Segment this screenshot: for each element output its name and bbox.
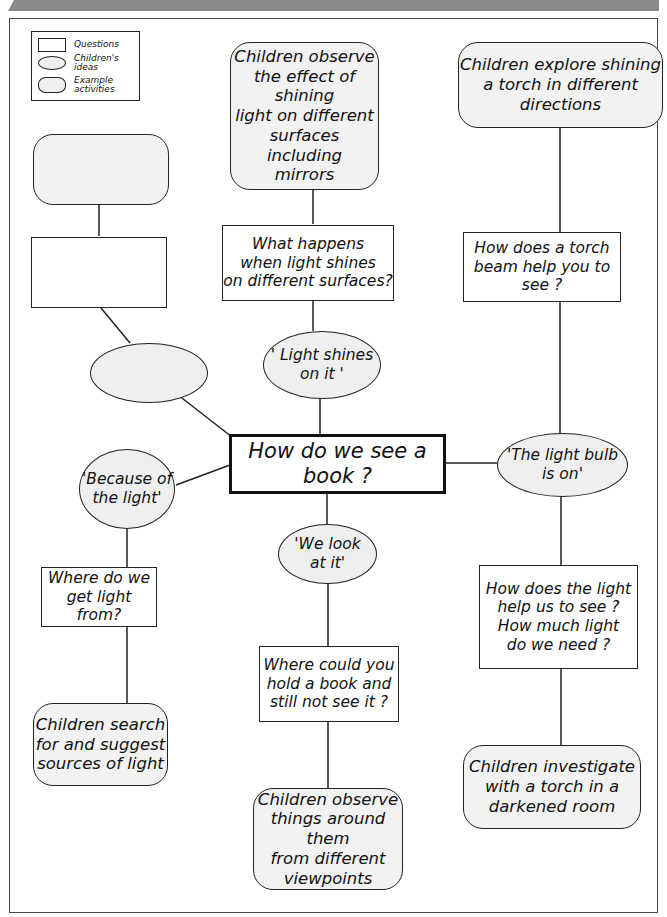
idea-ellipse-because-of-light: 'Because of the light' [79, 449, 175, 529]
activity-box-search-sources: Children search for and suggest sources … [33, 703, 168, 786]
question-box-torch-beam: How does a torch beam help you to see ? [463, 232, 621, 302]
question-box-light-on-surfaces: What happens when light shines on differ… [222, 225, 394, 301]
question-box-hold-book: Where could you hold a book and still no… [259, 646, 399, 722]
idea-ellipse-empty [90, 343, 208, 403]
rounded-rectangle-icon [38, 77, 66, 93]
activity-box-different-viewpoints: Children observe things around them from… [253, 788, 403, 890]
question-box-where-light-from: Where do we get light from? [41, 567, 157, 627]
question-box-empty [31, 237, 167, 308]
legend-label: Example activities [74, 76, 115, 95]
central-question: How do we see a book ? [229, 434, 446, 494]
idea-ellipse-we-look: 'We look at it' [278, 524, 377, 584]
activity-box-darkened-room: Children investigate with a torch in a d… [463, 745, 641, 829]
question-box-how-much-light: How does the light help us to see ? How … [479, 565, 638, 669]
legend-item-childrens-ideas: Children's ideas [38, 54, 119, 73]
activity-box-explore-torch: Children explore shining a torch in diff… [458, 42, 663, 128]
legend-item-example-activities: Example activities [38, 76, 115, 95]
legend-item-questions: Questions [38, 38, 119, 52]
legend: Questions Children's ideas Example activ… [31, 31, 140, 101]
activity-box-empty [33, 134, 169, 205]
ellipse-icon [38, 56, 66, 70]
idea-ellipse-light-shines: ' Light shines on it ' [263, 331, 381, 399]
legend-label: Children's ideas [74, 54, 119, 73]
rectangle-icon [38, 38, 66, 52]
idea-ellipse-light-bulb: 'The light bulb is on' [497, 433, 628, 497]
activity-box-observe-surfaces: Children observe the effect of shining l… [230, 42, 379, 190]
legend-label: Questions [74, 40, 119, 49]
